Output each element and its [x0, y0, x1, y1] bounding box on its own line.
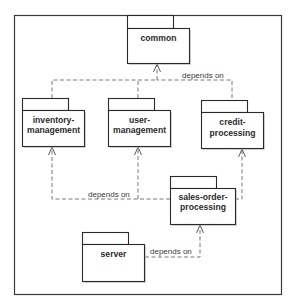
package-tab: [83, 233, 129, 245]
package-tab: [23, 99, 69, 111]
package-tab: [109, 99, 155, 111]
package-tab: [171, 177, 217, 189]
package-label-line-2: processing: [180, 202, 226, 212]
edge-label-middle: depends on: [88, 190, 130, 199]
package-label-line-1: credit-: [219, 117, 245, 127]
edge-label-top: depends on: [182, 71, 224, 80]
package-label-line-1: inventory-: [33, 115, 75, 125]
edge-label-bottom: depends on: [150, 247, 192, 256]
package-label-line-1: user-: [129, 115, 150, 125]
package-label-line-1: sales-order-: [178, 192, 227, 202]
package-label-line-2: processing: [210, 128, 256, 138]
package-tab: [202, 101, 248, 113]
package-label: common: [141, 33, 177, 43]
package-label: server: [101, 249, 127, 259]
package-diagram: depends on depends on depends on common …: [0, 0, 293, 308]
package-label-line-2: management: [113, 125, 166, 135]
package-label-line-2: management: [27, 125, 80, 135]
package-tab: [128, 16, 174, 29]
